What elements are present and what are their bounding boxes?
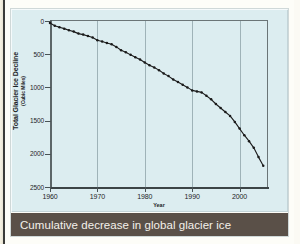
data-point bbox=[257, 156, 260, 159]
data-point bbox=[87, 35, 90, 38]
caption-bar: Cumulative decrease in global glacier ic… bbox=[11, 213, 288, 236]
y-tick-label-2500: 2500 bbox=[18, 184, 44, 191]
x-tick-mark bbox=[145, 187, 146, 192]
data-point bbox=[243, 134, 246, 137]
x-tick-mark bbox=[240, 187, 241, 192]
data-point bbox=[110, 43, 113, 46]
data-point bbox=[63, 27, 66, 30]
data-point bbox=[234, 121, 237, 124]
x-tick-mark bbox=[192, 187, 193, 192]
x-tick-mark bbox=[97, 187, 98, 192]
y-tick-label-wrap: 2500 bbox=[16, 184, 44, 191]
y-tick-label-2000: 2000 bbox=[18, 150, 44, 157]
figure-page: 05001000150020002500 1960197019801990200… bbox=[0, 0, 300, 244]
series-line bbox=[50, 23, 263, 166]
data-point bbox=[162, 72, 165, 75]
data-point bbox=[177, 81, 180, 84]
data-point bbox=[262, 165, 265, 168]
data-point bbox=[96, 39, 99, 42]
data-point bbox=[58, 26, 61, 29]
data-point bbox=[91, 36, 94, 39]
data-point bbox=[68, 29, 71, 32]
data-point bbox=[215, 103, 218, 106]
data-point bbox=[129, 54, 132, 57]
data-point bbox=[49, 22, 52, 25]
x-tick-label-2000: 2000 bbox=[223, 193, 257, 200]
data-point bbox=[172, 78, 175, 81]
data-point bbox=[144, 61, 147, 64]
y-tick-label-wrap: 0 bbox=[16, 18, 44, 25]
data-point bbox=[158, 69, 161, 72]
data-point bbox=[238, 127, 241, 130]
page-binding-line bbox=[3, 0, 5, 244]
data-point bbox=[229, 115, 232, 118]
y-tick-label-0: 0 bbox=[18, 18, 44, 25]
data-point bbox=[77, 32, 80, 35]
data-point bbox=[72, 30, 75, 33]
data-point bbox=[210, 98, 213, 101]
data-series-glacier-ice-decline bbox=[50, 21, 268, 187]
page-right-margin bbox=[294, 0, 300, 244]
x-tick-mark bbox=[50, 187, 51, 192]
data-point bbox=[200, 91, 203, 94]
x-axis-title: Year bbox=[50, 202, 268, 208]
data-point bbox=[115, 46, 118, 49]
data-point bbox=[53, 24, 56, 27]
caption-text: Cumulative decrease in global glacier ic… bbox=[20, 219, 231, 231]
data-point bbox=[125, 51, 128, 54]
x-tick-label-1960: 1960 bbox=[33, 193, 67, 200]
data-point bbox=[186, 86, 189, 89]
data-point bbox=[106, 42, 109, 45]
data-point bbox=[120, 49, 123, 52]
data-point bbox=[82, 33, 85, 36]
data-point bbox=[148, 64, 151, 67]
x-tick-label-1970: 1970 bbox=[80, 193, 114, 200]
y-axis-title: Total Glacier Ice Decline (Cubic Miles) bbox=[12, 31, 26, 151]
data-point bbox=[139, 58, 142, 61]
data-point bbox=[219, 107, 222, 110]
data-point bbox=[224, 111, 227, 114]
data-point bbox=[101, 40, 104, 43]
y-axis-title-main: Total Glacier Ice Decline bbox=[12, 31, 20, 151]
data-point bbox=[134, 56, 137, 59]
data-point bbox=[253, 147, 256, 150]
data-point bbox=[248, 140, 251, 143]
data-point bbox=[181, 83, 184, 86]
data-point bbox=[196, 90, 199, 93]
y-tick-label-wrap: 2000 bbox=[16, 150, 44, 157]
x-tick-label-1990: 1990 bbox=[175, 193, 209, 200]
x-tick-label-1980: 1980 bbox=[128, 193, 162, 200]
data-point bbox=[205, 94, 208, 97]
data-point bbox=[167, 75, 170, 78]
axis-bottom bbox=[50, 187, 269, 189]
y-axis-title-units: (Cubic Miles) bbox=[20, 31, 26, 151]
data-point bbox=[153, 66, 156, 69]
data-point bbox=[191, 89, 194, 92]
